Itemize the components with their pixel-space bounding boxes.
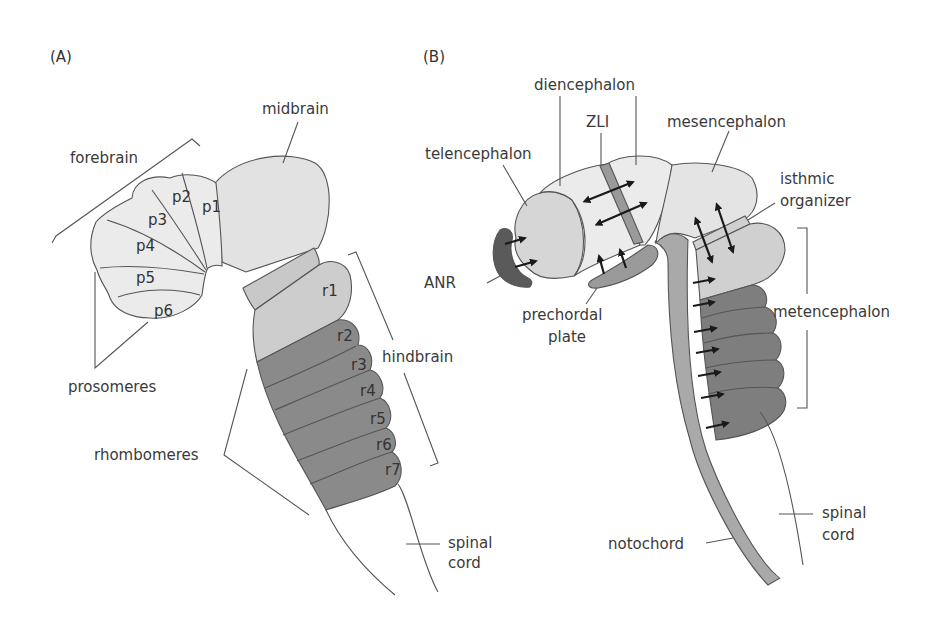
zli-label: ZLI xyxy=(586,113,609,131)
anr-label: ANR xyxy=(424,274,456,292)
brain-development-diagram: (A) forebrain midbrain p1 p2 p3 p4 p5 p6… xyxy=(0,0,935,628)
prosomere-p1: p1 xyxy=(202,198,221,216)
panel-b-label: (B) xyxy=(423,48,445,66)
isthmic-organizer-label-2: organizer xyxy=(780,192,852,210)
notochord-label: notochord xyxy=(608,535,684,553)
rhombomere-r1: r1 xyxy=(322,282,338,300)
panel-a-label: (A) xyxy=(50,48,72,66)
metencephalon-label: metencephalon xyxy=(773,303,890,321)
telencephalon-region xyxy=(515,192,584,279)
metencephalon-bracket-bottom xyxy=(797,330,807,408)
rhombomere-r2: r2 xyxy=(337,327,353,345)
spinal-cord-b-label-2: cord xyxy=(822,526,855,544)
rhombomere-r3: r3 xyxy=(351,356,367,374)
telencephalon-leader xyxy=(503,165,527,206)
prechordal-plate-label-1: prechordal xyxy=(522,306,602,324)
metencephalon-bracket-top xyxy=(797,228,807,294)
hindbrain-bracket-bottom xyxy=(404,373,438,466)
mesencephalon-label: mesencephalon xyxy=(667,113,786,131)
prechordal-plate-leader xyxy=(586,288,597,304)
prosomeres-label: prosomeres xyxy=(68,378,156,396)
prosomere-p4: p4 xyxy=(136,237,155,255)
spinal-cord-a-right xyxy=(398,484,438,592)
midbrain-label: midbrain xyxy=(262,100,329,118)
rhombomere-r5: r5 xyxy=(370,410,386,428)
spinal-cord-a-label-1: spinal xyxy=(448,534,492,552)
panel-a: (A) forebrain midbrain p1 p2 p3 p4 p5 p6… xyxy=(50,48,492,595)
prosomere-p3: p3 xyxy=(148,211,167,229)
panel-b: (B) xyxy=(423,48,890,585)
isthmic-organizer-label-1: isthmic xyxy=(780,170,834,188)
prosomere-p2: p2 xyxy=(172,188,191,206)
prosomere-p6: p6 xyxy=(154,302,173,320)
notochord-leader xyxy=(706,538,733,543)
prechordal-plate-label-2: plate xyxy=(548,328,586,346)
anr-leader xyxy=(487,276,500,283)
telencephalon-label: telencephalon xyxy=(425,145,532,163)
rhombomere-r7: r7 xyxy=(385,461,401,479)
spinal-cord-b-right xyxy=(760,412,803,565)
prosomere-p5: p5 xyxy=(136,269,155,287)
spinal-cord-b-label-1: spinal xyxy=(822,504,866,522)
rhombomeres-label: rhombomeres xyxy=(94,446,199,464)
forebrain-label: forebrain xyxy=(70,149,138,167)
hindbrain-label: hindbrain xyxy=(382,348,453,366)
rhombomere-r4: r4 xyxy=(360,382,376,400)
spinal-cord-a-label-2: cord xyxy=(448,554,481,572)
diencephalon-label: diencephalon xyxy=(534,76,635,94)
rhombomere-r6: r6 xyxy=(376,436,392,454)
spinal-cord-a-left xyxy=(326,510,395,595)
